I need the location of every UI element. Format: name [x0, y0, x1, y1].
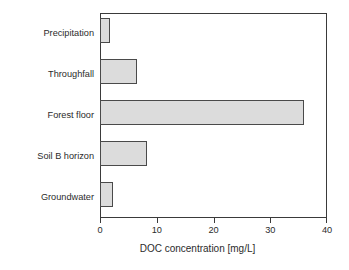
bar-row — [100, 177, 327, 218]
bar-row — [100, 95, 327, 136]
bar-row — [100, 13, 327, 54]
x-tick — [214, 218, 215, 223]
x-tick — [157, 218, 158, 223]
bars-layer — [100, 13, 327, 218]
x-tick-label: 0 — [97, 225, 102, 236]
bar-precipitation — [100, 18, 110, 43]
x-tick-label: 20 — [208, 225, 218, 236]
x-tick-label: 10 — [152, 225, 162, 236]
x-axis-title: DOC concentration [mg/L] — [0, 243, 349, 255]
bar-groundwater — [100, 182, 113, 207]
bar-row — [100, 136, 327, 177]
bar-row — [100, 54, 327, 95]
category-axis-labels: PrecipitationThroughfallForest floorSoil… — [0, 13, 94, 218]
doc-concentration-bar-chart: PrecipitationThroughfallForest floorSoil… — [0, 0, 349, 270]
x-axis: 010203040 — [100, 218, 327, 219]
x-tick-label: 30 — [265, 225, 275, 236]
x-tick — [100, 218, 101, 223]
category-label-groundwater: Groundwater — [2, 192, 94, 203]
x-tick-label: 40 — [322, 225, 332, 236]
category-label-throughfall: Throughfall — [2, 69, 94, 80]
bar-soil-b-horizon — [100, 141, 147, 166]
category-label-forest-floor: Forest floor — [2, 110, 94, 121]
category-label-precipitation: Precipitation — [2, 28, 94, 39]
category-label-soil-b-horizon: Soil B horizon — [2, 151, 94, 162]
bar-forest-floor — [100, 100, 304, 125]
x-tick — [270, 218, 271, 223]
bar-throughfall — [100, 59, 137, 84]
x-tick — [326, 218, 327, 223]
